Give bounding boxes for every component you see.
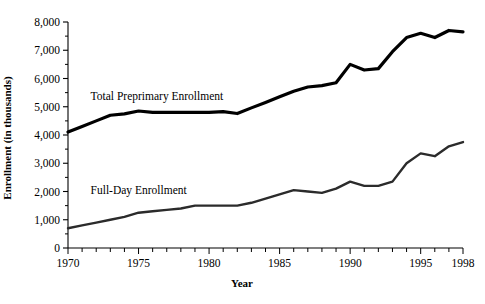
y-tick-label: 1,000 — [34, 214, 60, 227]
x-axis-title: Year — [231, 277, 253, 289]
y-tick-label: 2,000 — [34, 186, 60, 199]
x-tick-label: 1998 — [452, 257, 475, 269]
x-tick-label: 1970 — [57, 257, 80, 269]
x-tick-label: 1975 — [127, 257, 150, 269]
x-tick-label: 1990 — [339, 257, 362, 269]
x-tick-label: 1985 — [268, 257, 291, 269]
y-tick-label: 3,000 — [34, 157, 60, 170]
y-axis-title: Enrollment (in thousands) — [1, 76, 14, 200]
x-tick-label: 1995 — [409, 257, 432, 269]
series-line-1 — [68, 30, 463, 132]
y-tick-label: 6,000 — [34, 73, 60, 86]
series-label-1: Total Preprimary Enrollment — [91, 90, 224, 103]
x-tick-label: 1980 — [198, 257, 221, 269]
y-tick-label: 7,000 — [34, 44, 60, 57]
series-label-2: Full-Day Enrollment — [91, 184, 188, 197]
line-chart: 01,0002,0003,0004,0005,0006,0007,0008,00… — [0, 0, 485, 304]
y-tick-label: 4,000 — [34, 129, 60, 142]
y-tick-label: 0 — [54, 242, 60, 254]
y-tick-label: 5,000 — [34, 101, 60, 114]
y-tick-label: 8,000 — [34, 16, 60, 29]
chart-container: 01,0002,0003,0004,0005,0006,0007,0008,00… — [0, 0, 485, 304]
